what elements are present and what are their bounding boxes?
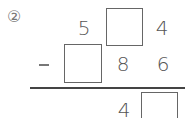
- row1-ones-digit: 4: [154, 18, 170, 38]
- result-ones-answer-box[interactable]: [141, 92, 178, 118]
- row2-tens-digit: 8: [115, 54, 131, 74]
- sum-line: [30, 87, 185, 89]
- minus-sign: [39, 64, 49, 66]
- row2-hundreds-answer-box[interactable]: [64, 44, 102, 83]
- problem-number: ②: [7, 9, 21, 25]
- row2-ones-digit: 6: [155, 54, 171, 74]
- row1-hundreds-digit: 5: [76, 18, 92, 38]
- result-tens-digit: 4: [116, 100, 132, 118]
- row1-tens-answer-box[interactable]: [106, 8, 143, 46]
